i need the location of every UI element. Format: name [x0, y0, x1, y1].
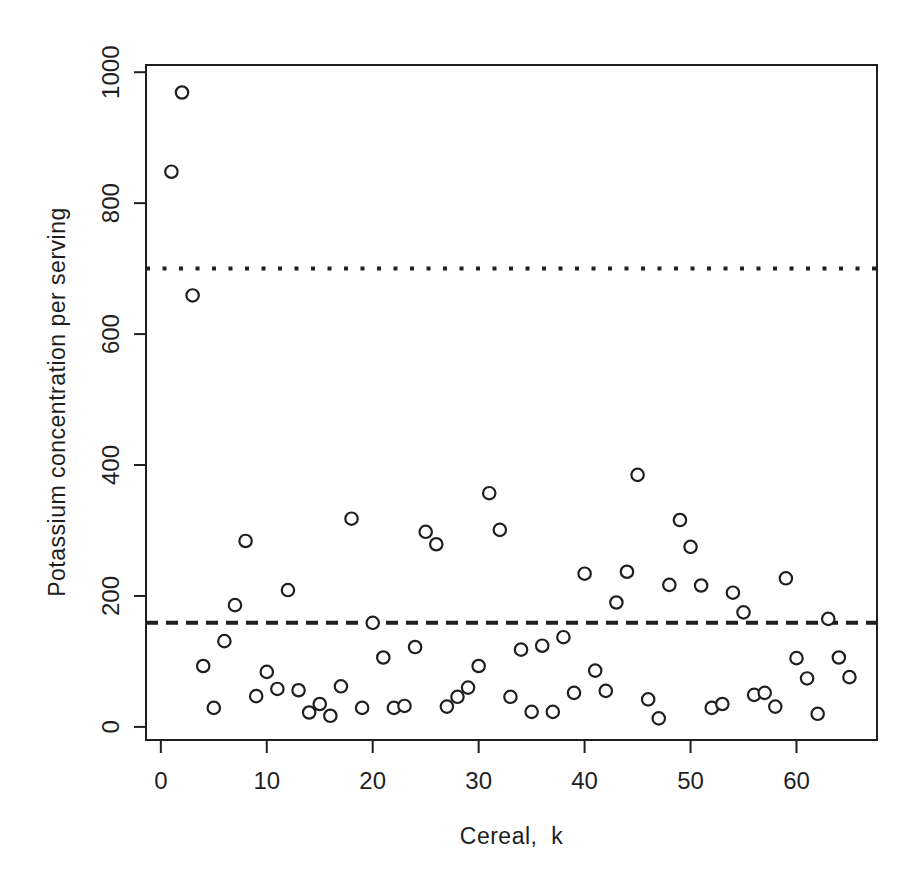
data-point — [610, 596, 622, 608]
data-point — [483, 487, 495, 499]
data-point — [398, 700, 410, 712]
potassium-scatter-figure: 020040060080010000102030405060 Potassium… — [0, 0, 920, 892]
x-tick-label: 40 — [571, 767, 598, 794]
data-point — [833, 651, 845, 663]
data-point — [536, 640, 548, 652]
x-tick-label: 30 — [465, 767, 492, 794]
data-point — [557, 631, 569, 643]
data-point — [176, 86, 188, 98]
data-point — [653, 712, 665, 724]
data-point — [547, 706, 559, 718]
y-tick-label: 400 — [98, 445, 125, 485]
data-point — [451, 691, 463, 703]
data-point — [494, 524, 506, 536]
data-point — [271, 683, 283, 695]
scatter-plot-canvas: 020040060080010000102030405060 — [0, 0, 920, 892]
x-tick-label: 20 — [359, 767, 386, 794]
y-axis-title: Potassium concentration per serving — [44, 207, 71, 597]
data-point — [250, 690, 262, 702]
data-point — [419, 526, 431, 538]
y-tick-label: 800 — [98, 183, 125, 223]
data-point — [345, 513, 357, 525]
data-point — [695, 579, 707, 591]
data-point — [367, 617, 379, 629]
data-point — [759, 687, 771, 699]
plot-box — [146, 65, 877, 740]
data-point — [208, 702, 220, 714]
data-point — [642, 693, 654, 705]
data-point — [525, 706, 537, 718]
data-point — [801, 672, 813, 684]
data-point — [377, 651, 389, 663]
data-point — [292, 684, 304, 696]
data-point — [335, 680, 347, 692]
data-point — [674, 514, 686, 526]
data-point — [684, 541, 696, 553]
data-point — [663, 579, 675, 591]
y-tick-label: 1000 — [98, 46, 125, 99]
data-point — [631, 469, 643, 481]
data-point — [303, 706, 315, 718]
y-tick-label: 600 — [98, 314, 125, 354]
data-point — [430, 538, 442, 550]
data-point — [324, 710, 336, 722]
data-point — [218, 635, 230, 647]
data-point — [504, 691, 516, 703]
data-point — [462, 681, 474, 693]
data-point — [843, 671, 855, 683]
data-point — [165, 166, 177, 178]
data-point — [727, 586, 739, 598]
data-point — [600, 685, 612, 697]
data-point — [441, 700, 453, 712]
data-point — [229, 599, 241, 611]
y-tick-label: 0 — [98, 720, 125, 733]
data-point — [282, 584, 294, 596]
data-point — [186, 289, 198, 301]
x-tick-label: 50 — [677, 767, 704, 794]
data-point — [239, 535, 251, 547]
data-point — [314, 698, 326, 710]
x-tick-label: 0 — [154, 767, 167, 794]
data-point — [790, 652, 802, 664]
data-point — [716, 698, 728, 710]
data-point — [409, 641, 421, 653]
data-point — [472, 660, 484, 672]
data-point — [568, 687, 580, 699]
data-point — [578, 568, 590, 580]
data-point — [356, 702, 368, 714]
data-point — [197, 660, 209, 672]
data-point — [737, 606, 749, 618]
y-tick-label: 200 — [98, 576, 125, 616]
x-axis-title: Cereal, k — [146, 823, 877, 850]
data-point — [515, 643, 527, 655]
data-point — [780, 572, 792, 584]
data-point — [621, 566, 633, 578]
data-point — [769, 700, 781, 712]
data-point — [822, 613, 834, 625]
x-tick-label: 10 — [253, 767, 280, 794]
data-point — [811, 708, 823, 720]
x-tick-label: 60 — [783, 767, 810, 794]
data-point — [261, 666, 273, 678]
data-point — [589, 664, 601, 676]
